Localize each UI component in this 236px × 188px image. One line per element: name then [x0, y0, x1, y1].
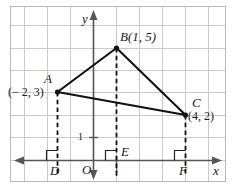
- x-axis-label: x: [213, 164, 219, 177]
- foot-label-E: E: [121, 145, 129, 158]
- point-label-A: A: [44, 72, 52, 85]
- coordinate-plane-figure: A (− 2, 3) B(1, 5) C (4, 2) D E F O y x …: [0, 0, 236, 188]
- y-axis-label: y: [82, 12, 88, 25]
- foot-label-F: F: [179, 164, 187, 177]
- vertex-dot-B: [114, 45, 119, 50]
- foot-label-D: D: [50, 164, 59, 177]
- origin-label: O: [82, 163, 91, 176]
- point-coord-C: (4, 2): [188, 110, 214, 122]
- point-coord-A: (− 2, 3): [8, 86, 44, 98]
- point-label-C: C: [192, 96, 201, 109]
- x-axis-tick-label: 1: [114, 164, 119, 174]
- y-axis-tick-label: 1: [78, 132, 83, 142]
- vertex-dot-A: [55, 89, 60, 94]
- point-label-B: B(1, 5): [120, 30, 156, 43]
